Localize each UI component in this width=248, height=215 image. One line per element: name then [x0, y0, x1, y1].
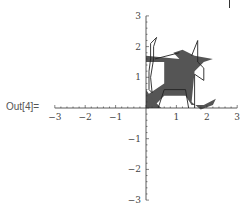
axes: −3−2−1123−3−2−1123 — [48, 11, 240, 205]
x-tick-label: −1 — [109, 112, 122, 122]
outline-left-curve — [149, 37, 157, 92]
y-tick-label: 1 — [135, 72, 141, 82]
x-tick-label: 3 — [234, 112, 240, 122]
x-tick-label: 1 — [174, 112, 180, 122]
x-tick-label: 2 — [204, 112, 210, 122]
graphics-plot: −3−2−1123−3−2−1123 — [0, 0, 248, 215]
x-tick-label: −3 — [48, 112, 62, 122]
y-tick-label: 2 — [135, 42, 141, 52]
y-tick-label: −3 — [128, 195, 142, 205]
y-tick-label: 3 — [135, 11, 141, 21]
y-tick-label: −1 — [128, 134, 141, 144]
x-tick-label: −2 — [79, 112, 92, 122]
y-tick-label: −2 — [128, 164, 141, 174]
